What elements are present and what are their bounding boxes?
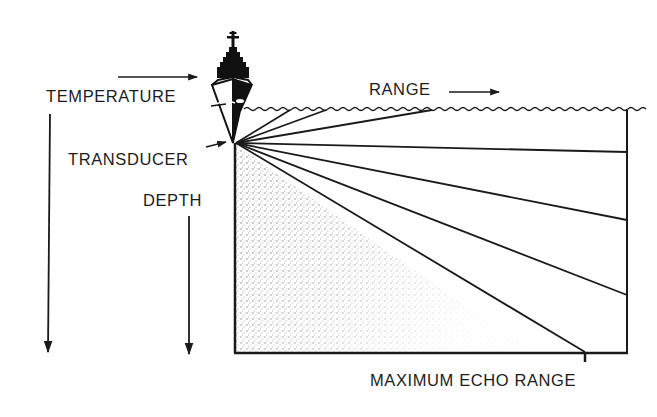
diagram-canvas (0, 0, 657, 417)
max-echo-range-label: MAXIMUM ECHO RANGE (370, 372, 576, 389)
shadow-zone (236, 145, 530, 352)
transducer-label: TRANSDUCER (68, 151, 189, 168)
range-label: RANGE (369, 81, 431, 98)
depth-label: DEPTH (143, 192, 202, 209)
depth-arrow-outer (48, 114, 50, 352)
transducer-arrow (206, 142, 226, 147)
sea-surface (244, 108, 646, 111)
ship-bow-icon (211, 31, 252, 143)
temperature-label: TEMPERATURE (46, 88, 176, 105)
